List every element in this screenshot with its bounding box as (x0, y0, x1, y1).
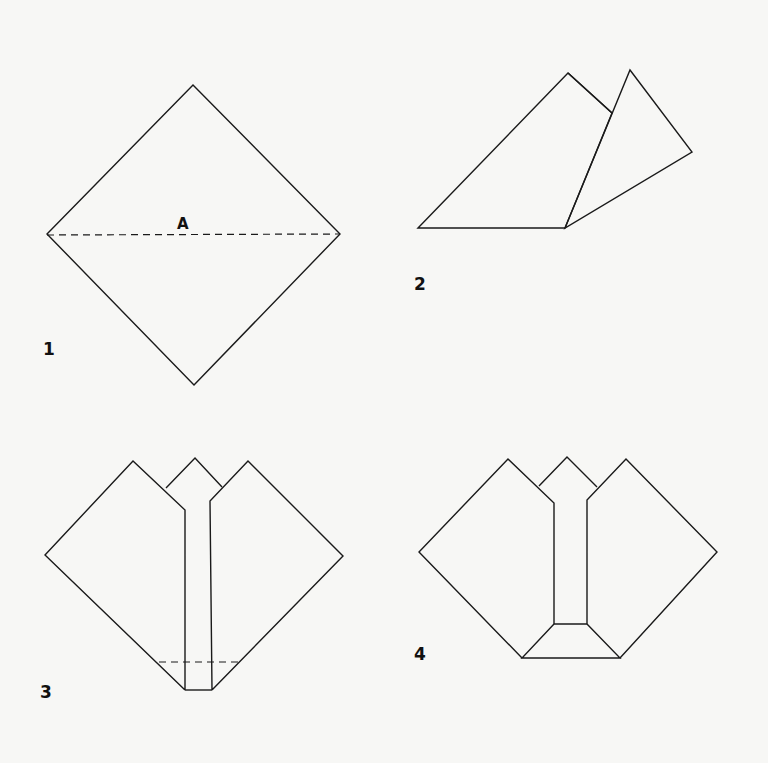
step-2-figure: 2 (414, 70, 692, 294)
step-3-right-flap (210, 461, 343, 690)
step-3-center-point (166, 458, 222, 488)
step-3-figure: 3 (40, 458, 343, 702)
origami-diagram: A 1 2 3 4 (0, 0, 768, 763)
step-number-3: 3 (40, 682, 52, 702)
step-2-flap (565, 70, 692, 228)
step-1-figure: A 1 (43, 85, 340, 385)
step-number-2: 2 (414, 274, 426, 294)
step-4-left-flap (419, 459, 554, 658)
step-4-figure: 4 (414, 457, 717, 664)
step-4-trapezoid-base (522, 624, 620, 658)
step-number-4: 4 (414, 644, 426, 664)
step-4-center-point (539, 457, 597, 487)
fold-line-a (47, 234, 340, 235)
step-number-1: 1 (43, 339, 55, 359)
fold-label-a: A (177, 215, 189, 233)
step-3-left-flap (45, 461, 185, 690)
step-2-triangle (418, 73, 612, 228)
step-4-right-flap (587, 459, 717, 658)
